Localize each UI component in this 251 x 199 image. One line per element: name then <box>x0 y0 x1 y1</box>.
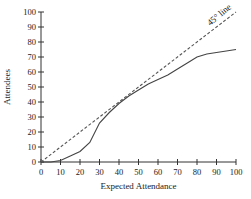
y-tick-label: 90 <box>28 22 37 32</box>
x-tick-label: 90 <box>212 167 221 177</box>
x-axis-title: Expected Attendance <box>100 181 176 191</box>
x-axis: 0102030405060708090100 <box>39 159 243 177</box>
x-tick-label: 50 <box>134 167 143 177</box>
y-tick-label: 80 <box>28 37 37 47</box>
x-tick-label: 70 <box>173 167 182 177</box>
x-tick-label: 30 <box>95 167 104 177</box>
x-tick-label: 40 <box>115 167 124 177</box>
x-tick-label: 80 <box>193 167 202 177</box>
x-tick-label: 100 <box>230 167 243 177</box>
y-tick-label: 70 <box>28 52 37 62</box>
y-tick-label: 50 <box>28 82 37 92</box>
y-tick-label: 100 <box>23 7 36 17</box>
reference-line-45 <box>41 12 236 162</box>
plot-area <box>41 12 236 162</box>
chart: 0102030405060708090100 01020304050607080… <box>0 0 251 199</box>
y-tick-label: 30 <box>28 112 37 122</box>
x-tick-label: 60 <box>154 167 163 177</box>
y-axis: 0102030405060708090100 <box>23 7 44 167</box>
x-tick-label: 20 <box>76 167 85 177</box>
annotation-45-line: 45° line <box>205 2 233 28</box>
y-tick-label: 40 <box>28 97 37 107</box>
x-tick-label: 10 <box>56 167 65 177</box>
x-tick-label: 0 <box>39 167 43 177</box>
y-tick-label: 60 <box>28 67 37 77</box>
y-tick-label: 0 <box>32 157 36 167</box>
y-tick-label: 10 <box>28 142 37 152</box>
y-axis-title: Attendees <box>2 69 12 105</box>
y-tick-label: 20 <box>28 127 37 137</box>
attendees-line <box>41 50 236 163</box>
